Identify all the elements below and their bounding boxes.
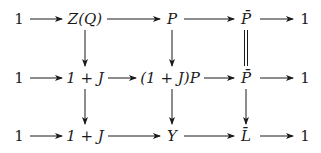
node-r2c1: 1 + J	[66, 128, 104, 144]
node-r2c2: Y	[167, 128, 177, 144]
node-r1c2: (1 + J)P	[140, 70, 199, 86]
node-r0c4: 1	[300, 11, 310, 27]
node-r0c2: P	[167, 11, 177, 27]
node-r0c0: 1	[14, 11, 24, 27]
node-r0c1: Z(Q)	[68, 11, 102, 27]
node-r2c4: 1	[300, 128, 310, 144]
node-r2c3: L̄	[241, 128, 251, 144]
node-r1c0: 1	[14, 70, 24, 86]
node-r1c3: P̄	[241, 70, 251, 86]
node-r1c1: 1 + J	[66, 70, 104, 86]
node-r2c0: 1	[14, 128, 24, 144]
node-r1c4: 1	[300, 70, 310, 86]
node-r0c3: P̄	[241, 11, 251, 27]
